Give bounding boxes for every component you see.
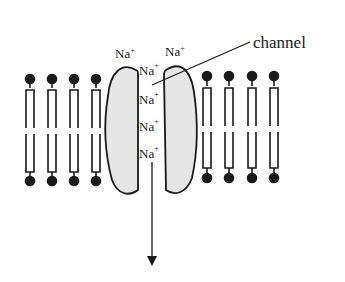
phospholipid: [203, 72, 212, 183]
phospholipid: [248, 72, 257, 183]
phospholipid: [92, 75, 101, 186]
sodium-channel-diagram: channel Na+ Na+ Na+ Na+ Na+ Na+: [0, 0, 345, 282]
phospholipid: [225, 72, 234, 183]
channel-protein-right: [164, 66, 197, 193]
sodium-ion: Na+: [139, 117, 159, 134]
sodium-ion: Na+: [139, 90, 159, 107]
phospholipid: [26, 75, 35, 186]
sodium-ion: Na+: [139, 144, 159, 161]
phospholipids-right: [203, 72, 279, 183]
sodium-ion: Na+: [139, 61, 159, 78]
channel-label: channel: [253, 33, 306, 52]
phospholipid: [48, 75, 57, 186]
phospholipids-left: [26, 75, 101, 186]
phospholipid: [270, 72, 279, 183]
phospholipid: [70, 75, 79, 186]
sodium-ion: Na+: [115, 46, 135, 61]
channel-protein-left: [105, 67, 138, 193]
sodium-ion: Na+: [165, 44, 185, 59]
ion-flow-arrow: [147, 162, 157, 266]
